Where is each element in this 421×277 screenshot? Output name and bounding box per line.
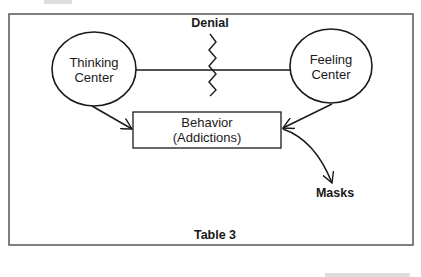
arrow-behavior-to-masks bbox=[283, 129, 332, 183]
denial-label: Denial bbox=[175, 16, 245, 31]
behavior-line1: Behavior bbox=[133, 115, 281, 130]
feeling-line1: Feeling bbox=[291, 52, 371, 67]
denial-zigzag-icon bbox=[209, 34, 216, 96]
thinking-line2: Center bbox=[54, 70, 134, 85]
thinking-line1: Thinking bbox=[54, 55, 134, 70]
cropped-text-fragment-top bbox=[44, 0, 72, 4]
cropped-text-fragment-bottom bbox=[325, 273, 410, 277]
feeling-center-label: Feeling Center bbox=[291, 52, 371, 82]
masks-label: Masks bbox=[305, 186, 365, 201]
behavior-label: Behavior (Addictions) bbox=[133, 115, 281, 145]
arrow-feeling-to-behavior bbox=[283, 104, 332, 128]
feeling-line2: Center bbox=[291, 67, 371, 82]
thinking-center-label: Thinking Center bbox=[54, 55, 134, 85]
behavior-line2: (Addictions) bbox=[133, 130, 281, 145]
arrow-thinking-to-behavior bbox=[92, 106, 132, 129]
table-caption: Table 3 bbox=[175, 228, 255, 243]
